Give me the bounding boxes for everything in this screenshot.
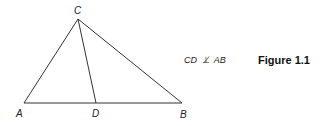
relation-left: CD	[184, 55, 197, 65]
relation-right: AB	[213, 55, 226, 65]
point-label-a: A	[15, 108, 23, 119]
relation-statement: CD ⊥̸ AB	[184, 55, 226, 65]
segment-ac	[24, 19, 78, 103]
figure-caption: Figure 1.1	[258, 54, 310, 66]
triangle-lines	[24, 19, 182, 103]
point-label-d: D	[92, 108, 99, 119]
triangle-diagram: C A D B CD ⊥̸ AB Figure 1.1	[0, 0, 323, 126]
not-perpendicular-icon: ⊥̸	[202, 55, 210, 65]
point-label-b: B	[180, 109, 187, 120]
point-label-c: C	[74, 5, 82, 16]
